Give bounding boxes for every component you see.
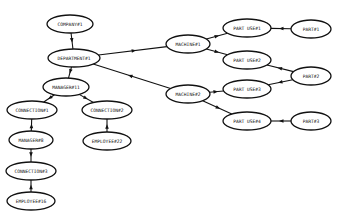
arrowhead-icon xyxy=(29,152,33,157)
arrowhead-icon xyxy=(48,95,53,99)
node-layer: COMPANY#1DEPARTMENT#1MANAGER#11CONNECTIO… xyxy=(6,15,331,210)
node-partuse4[interactable]: PART USE#4 xyxy=(223,112,271,130)
diagram-canvas: COMPANY#1DEPARTMENT#1MANAGER#11CONNECTIO… xyxy=(0,0,340,224)
node-label: CONNECTION#1 xyxy=(15,108,48,113)
arrowhead-icon xyxy=(279,27,284,31)
node-label: PART USE#1 xyxy=(233,26,261,31)
arrowhead-icon xyxy=(215,105,220,109)
edge-department1-to-machine1 xyxy=(99,47,167,55)
arrowhead-icon xyxy=(128,75,133,78)
node-label: MACHINE#1 xyxy=(176,42,201,47)
edge-part2-to-partuse2 xyxy=(267,65,294,72)
node-label: EMPLOYEE#22 xyxy=(92,139,123,144)
node-employee16[interactable]: EMPLOYEE#16 xyxy=(7,192,55,210)
edge-manager11-to-connection1 xyxy=(44,95,55,102)
node-department1[interactable]: DEPARTMENT#1 xyxy=(48,49,100,67)
node-partuse3[interactable]: PART USE#3 xyxy=(223,80,271,98)
edge-manager8-to-connection3 xyxy=(29,149,33,162)
node-partuse2[interactable]: PART USE#2 xyxy=(223,51,271,69)
edge-machine2-to-department1 xyxy=(93,64,170,88)
arrowhead-icon xyxy=(29,185,33,190)
node-connection2[interactable]: CONNECTION#2 xyxy=(82,101,132,119)
edge-machine1-to-partuse2 xyxy=(206,49,227,55)
node-label: MANAGER#8 xyxy=(19,138,44,143)
node-label: PART USE#4 xyxy=(233,119,261,124)
node-part2[interactable]: PART#2 xyxy=(291,67,331,85)
node-label: MACHINE#2 xyxy=(176,92,201,97)
node-machine2[interactable]: MACHINE#2 xyxy=(166,85,210,103)
arrowhead-icon xyxy=(279,119,284,123)
arrowhead-icon xyxy=(214,50,219,53)
node-label: PART#3 xyxy=(303,119,320,124)
edge-part3-to-partuse4 xyxy=(271,119,291,123)
node-connection1[interactable]: CONNECTION#1 xyxy=(7,101,57,119)
arrowhead-icon xyxy=(83,95,88,99)
node-manager8[interactable]: MANAGER#8 xyxy=(9,131,53,149)
edge-machine1-to-partuse1 xyxy=(206,33,227,39)
edge-part1-to-partuse1 xyxy=(271,27,291,31)
node-company1[interactable]: COMPANY#1 xyxy=(47,15,93,33)
arrowhead-icon xyxy=(105,124,109,129)
node-label: MANAGER#11 xyxy=(52,85,80,90)
edge-machine2-to-partuse3 xyxy=(210,90,224,94)
edge-machine2-to-partuse4 xyxy=(203,101,232,114)
edge-manager8-to-connection1 xyxy=(30,119,34,131)
node-label: COMPANY#1 xyxy=(58,22,83,27)
node-part1[interactable]: PART#1 xyxy=(291,20,331,38)
edge-department1-to-manager11 xyxy=(68,67,72,78)
node-label: PART USE#2 xyxy=(233,58,261,63)
edge-employee22-to-connection2 xyxy=(105,119,109,132)
node-label: EMPLOYEE#16 xyxy=(16,199,47,204)
node-label: PART USE#3 xyxy=(233,87,261,92)
edge-part2-to-partuse3 xyxy=(268,80,293,85)
node-connection3[interactable]: CONNECTION#3 xyxy=(6,162,56,180)
arrowhead-icon xyxy=(30,124,34,129)
entity-graph: COMPANY#1DEPARTMENT#1MANAGER#11CONNECTIO… xyxy=(0,0,340,224)
edge-manager11-to-connection2 xyxy=(79,94,93,102)
node-manager11[interactable]: MANAGER#11 xyxy=(43,78,89,96)
arrowhead-icon xyxy=(69,69,72,74)
edge-company1-to-department1 xyxy=(70,33,74,49)
node-label: PART#1 xyxy=(303,27,320,32)
edge-employee16-to-connection3 xyxy=(29,180,33,192)
node-label: PART#2 xyxy=(303,74,320,79)
node-label: CONNECTION#3 xyxy=(14,169,47,174)
node-label: DEPARTMENT#1 xyxy=(57,56,90,61)
node-partuse1[interactable]: PART USE#1 xyxy=(223,19,271,37)
node-employee22[interactable]: EMPLOYEE#22 xyxy=(83,132,131,150)
node-label: CONNECTION#2 xyxy=(90,108,123,113)
node-part3[interactable]: PART#3 xyxy=(291,112,331,130)
arrowhead-icon xyxy=(214,35,219,38)
node-machine1[interactable]: MACHINE#1 xyxy=(166,35,210,53)
